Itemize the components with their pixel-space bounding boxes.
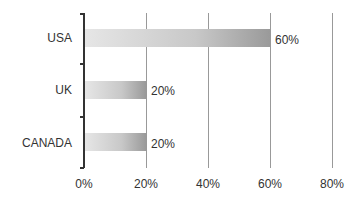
x-tick-label: 80%	[312, 177, 352, 191]
y-tick	[80, 116, 84, 118]
bar-uk	[85, 81, 146, 99]
bar-canada	[85, 133, 146, 151]
x-tick-label: 40%	[188, 177, 228, 191]
bar-usa	[85, 29, 270, 47]
x-tick-label: 0%	[64, 177, 104, 191]
gridline-80	[332, 13, 333, 168]
x-tick-label: 20%	[126, 177, 166, 191]
category-label: USA	[2, 31, 72, 45]
value-label: 20%	[151, 137, 175, 151]
y-tick	[80, 13, 84, 15]
y-tick	[80, 63, 84, 65]
category-label: UK	[2, 83, 72, 97]
category-label: CANADA	[2, 136, 72, 150]
value-label: 60%	[275, 33, 299, 47]
x-tick-label: 60%	[250, 177, 290, 191]
value-label: 20%	[151, 84, 175, 98]
y-tick	[80, 167, 84, 169]
gridline-60	[270, 13, 271, 168]
